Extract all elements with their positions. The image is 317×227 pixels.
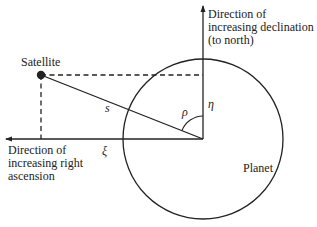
ascension-label-line2: increasing right	[8, 156, 84, 170]
satellite-label: Satellite	[21, 55, 60, 69]
declination-label-line2: increasing declination	[208, 20, 314, 34]
satellite-planet-diagram: Satellite Planet Direction of increasing…	[0, 0, 317, 227]
ascension-label-line3: ascension	[8, 169, 55, 183]
planet-label: Planet	[243, 161, 274, 175]
satellite-dot	[37, 71, 45, 79]
xi-label: ξ	[102, 144, 108, 158]
rho-label: ρ	[181, 105, 188, 119]
ascension-label-line1: Direction of	[8, 143, 66, 157]
s-label: s	[105, 101, 110, 115]
declination-label-line1: Direction of	[208, 7, 266, 21]
declination-label-line3: (to north)	[208, 33, 254, 47]
eta-label: η	[208, 97, 214, 111]
separation-line-s	[41, 75, 203, 139]
